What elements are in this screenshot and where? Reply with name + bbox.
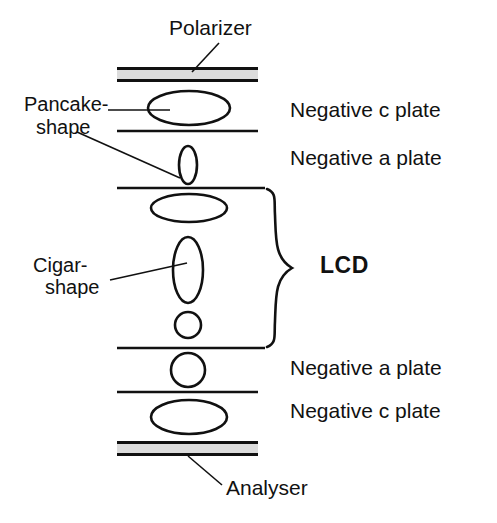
analyser-bar	[117, 441, 258, 456]
analyser-label: Analyser	[226, 477, 308, 498]
pancake-ellipse-bottom	[151, 400, 227, 434]
pancake-ellipse-top	[148, 91, 230, 125]
layer-label-negative-c-plate-bottom: Negative c plate	[290, 400, 441, 421]
circle-a-plate	[171, 353, 205, 387]
analyser-leader	[188, 456, 222, 485]
pancake-shape-label-line1: Pancake-	[24, 94, 109, 114]
lcd-brace	[267, 189, 292, 347]
layer-label-negative-c-plate-top: Negative c plate	[290, 99, 441, 120]
circle-lcd-bottom	[175, 312, 201, 338]
diagram-canvas: Polarizer Pancake- shape Cigar- shape Ne…	[0, 0, 497, 523]
pancake-leader-lower	[77, 132, 180, 178]
layer-label-negative-a-plate-bottom: Negative a plate	[290, 357, 442, 378]
lcd-label: LCD	[320, 254, 369, 277]
cigar-leader	[110, 263, 187, 280]
pancake-shape-label-line2: shape	[36, 117, 91, 137]
pancake-ellipse-lcd	[151, 194, 227, 222]
polarizer-bar	[117, 67, 258, 82]
polarizer-label: Polarizer	[169, 17, 252, 38]
layer-label-negative-a-plate-top: Negative a plate	[290, 147, 442, 168]
cigar-ellipse	[173, 237, 203, 303]
cigar-shape-label-line1: Cigar-	[33, 255, 87, 275]
narrow-ellipse-upper	[179, 146, 197, 184]
cigar-shape-label-line2: shape	[45, 277, 100, 297]
